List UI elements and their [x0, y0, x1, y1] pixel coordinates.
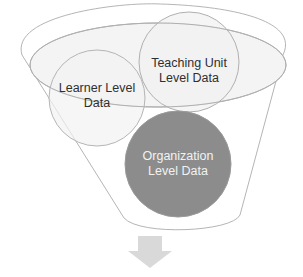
- teaching-unit-level-label: Teaching Unit Level Data: [140, 56, 238, 86]
- down-arrow-icon: [128, 236, 172, 268]
- learner-level-label: Learner Level Data: [52, 81, 142, 111]
- organization-level-label: Organization Level Data: [128, 149, 228, 179]
- funnel-graphic: [0, 0, 303, 277]
- funnel-diagram: Learner Level Data Teaching Unit Level D…: [0, 0, 303, 277]
